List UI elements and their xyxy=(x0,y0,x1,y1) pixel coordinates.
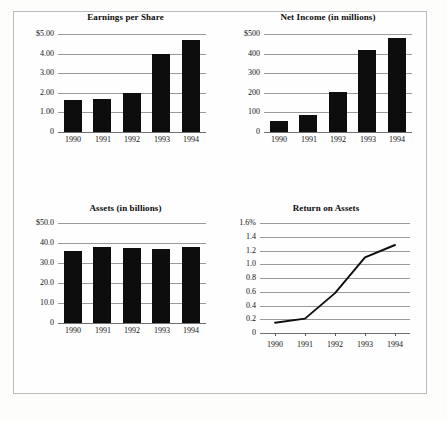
y-axis-tick-label: 0.2 xyxy=(224,315,256,323)
x-axis-tick-label: 1991 xyxy=(88,326,118,335)
gridline xyxy=(264,34,412,35)
line-series xyxy=(260,223,410,333)
x-axis-tick-label: 1993 xyxy=(350,340,380,349)
x-axis-tick-label: 1994 xyxy=(380,340,410,349)
plot-area-net-income: $500400300200100019901991199219931994 xyxy=(264,34,412,132)
x-axis-tick-label: 1991 xyxy=(294,135,324,144)
x-axis-tick-label: 1993 xyxy=(147,135,177,144)
bar xyxy=(93,99,111,132)
y-axis-tick-label: 400 xyxy=(224,50,260,58)
y-axis-tick-label: 200 xyxy=(224,89,260,97)
bar xyxy=(64,251,82,323)
y-axis-tick-label: 2.00 xyxy=(16,89,54,97)
x-axis-tick-label: 1994 xyxy=(382,135,412,144)
x-axis-tick-label: 1991 xyxy=(290,340,320,349)
gridline xyxy=(58,132,206,133)
x-axis-tick-mark xyxy=(305,333,306,336)
gridline xyxy=(58,34,206,35)
bar xyxy=(299,115,317,132)
y-axis-tick-label: 0.4 xyxy=(224,302,256,310)
bar xyxy=(388,38,406,132)
y-axis-tick-label: 4.00 xyxy=(16,50,54,58)
chart-title-assets: Assets (in billions) xyxy=(14,203,221,213)
x-axis-tick-label: 1993 xyxy=(353,135,383,144)
y-axis-tick-label: 0 xyxy=(224,128,260,136)
y-axis-tick-label: 1.6% xyxy=(224,219,256,227)
x-axis-tick-mark xyxy=(365,333,366,336)
x-axis-tick-label: 1992 xyxy=(117,326,147,335)
y-axis-tick-label: 1.0 xyxy=(224,260,256,268)
x-axis-tick-label: 1992 xyxy=(320,340,350,349)
x-axis-tick-mark xyxy=(335,333,336,336)
chart-title-return-on-assets: Return on Assets xyxy=(222,203,426,213)
y-axis-tick-label: 0.8 xyxy=(224,274,256,282)
gridline xyxy=(264,132,412,133)
bar xyxy=(64,100,82,132)
x-axis-tick-label: 1994 xyxy=(176,135,206,144)
y-axis-tick-label: 1.00 xyxy=(16,108,54,116)
chart-title-earnings-per-share: Earnings per Share xyxy=(14,12,221,22)
chart-panel-net-income: Net Income (in millions) $50040030020010… xyxy=(222,12,426,204)
bar xyxy=(182,247,200,323)
y-axis-tick-label: 0.6 xyxy=(224,288,256,296)
x-axis-tick-label: 1990 xyxy=(264,135,294,144)
y-axis-tick-label: 0 xyxy=(224,329,256,337)
x-axis-tick-mark xyxy=(275,333,276,336)
y-axis-tick-label: 100 xyxy=(224,108,260,116)
plot-area-earnings-per-share: $5.004.003.002.001.000199019911992199319… xyxy=(58,34,206,132)
x-axis-tick-label: 1993 xyxy=(147,326,177,335)
y-axis-tick-label: 30.0 xyxy=(16,259,54,267)
x-axis-tick-mark xyxy=(395,333,396,336)
chart-panel-assets: Assets (in billions) $50.040.030.020.010… xyxy=(14,203,221,393)
x-axis-tick-label: 1992 xyxy=(117,135,147,144)
y-axis-tick-label: 0 xyxy=(16,319,54,327)
x-axis-tick-label: 1992 xyxy=(323,135,353,144)
bar xyxy=(152,54,170,132)
x-axis-tick-label: 1990 xyxy=(58,135,88,144)
y-axis-tick-label: 1.2 xyxy=(224,247,256,255)
chart-panel-earnings-per-share: Earnings per Share $5.004.003.002.001.00… xyxy=(14,12,221,204)
y-axis-tick-label: $5.00 xyxy=(16,30,54,38)
y-axis-tick-label: 0 xyxy=(16,128,54,136)
y-axis-tick-label: 10.0 xyxy=(16,299,54,307)
y-axis-tick-label: 20.0 xyxy=(16,279,54,287)
bar xyxy=(329,92,347,132)
x-axis-tick-label: 1990 xyxy=(58,326,88,335)
y-axis-tick-label: $500 xyxy=(224,30,260,38)
bar xyxy=(123,248,141,323)
x-axis-tick-label: 1991 xyxy=(88,135,118,144)
plot-area-return-on-assets: 1.6%1.41.21.00.80.60.40.2019901991199219… xyxy=(260,223,410,333)
gridline xyxy=(58,223,206,224)
x-axis-tick-label: 1990 xyxy=(260,340,290,349)
bar xyxy=(358,50,376,132)
y-axis-tick-label: 3.00 xyxy=(16,69,54,77)
bar xyxy=(270,121,288,132)
chart-panel-return-on-assets: Return on Assets 1.6%1.41.21.00.80.60.40… xyxy=(222,203,426,393)
bar xyxy=(123,93,141,132)
x-axis-tick-label: 1994 xyxy=(176,326,206,335)
chart-title-net-income: Net Income (in millions) xyxy=(222,12,426,22)
y-axis-tick-label: 40.0 xyxy=(16,239,54,247)
gridline xyxy=(58,243,206,244)
y-axis-tick-label: 1.4 xyxy=(224,233,256,241)
y-axis-tick-label: 300 xyxy=(224,69,260,77)
gridline xyxy=(58,323,206,324)
figure-page: Earnings per Share $5.004.003.002.001.00… xyxy=(0,0,447,421)
plot-area-assets: $50.040.030.020.010.00199019911992199319… xyxy=(58,223,206,323)
bar xyxy=(93,247,111,323)
y-axis-tick-label: $50.0 xyxy=(16,219,54,227)
bar xyxy=(182,40,200,132)
bar xyxy=(152,249,170,323)
